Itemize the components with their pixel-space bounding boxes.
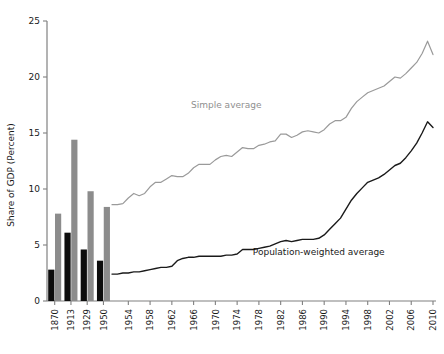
x-tick-label: 1970 xyxy=(211,309,221,331)
y-tick-label: 0 xyxy=(34,296,40,306)
x-tick-label: 1990 xyxy=(319,309,329,331)
y-tick-label: 10 xyxy=(29,184,41,194)
x-tick-label: 2006 xyxy=(406,309,416,331)
x-tick-label: 1870 xyxy=(50,309,60,331)
x-tick-label: 1958 xyxy=(145,309,155,331)
bar-population-weighted xyxy=(64,233,70,301)
bar-simple-average xyxy=(55,214,61,301)
chart-container: 0510152025Share of GDP (Percent)18701913… xyxy=(0,0,444,354)
x-tick-label: 1929 xyxy=(82,309,92,331)
bar-population-weighted xyxy=(97,261,103,301)
y-tick-label: 25 xyxy=(29,16,40,26)
bar-simple-average xyxy=(71,140,77,301)
x-tick-label: 1994 xyxy=(341,309,351,331)
x-tick-label: 1986 xyxy=(298,309,308,331)
x-tick-label: 2002 xyxy=(385,309,395,331)
x-tick-label: 1913 xyxy=(66,309,76,331)
x-tick-label: 1966 xyxy=(189,309,199,331)
bar-simple-average xyxy=(104,207,110,301)
bar-population-weighted xyxy=(81,249,87,301)
x-tick-label: 1998 xyxy=(363,309,373,331)
y-tick-label: 5 xyxy=(34,240,40,250)
bar-simple-average xyxy=(88,191,94,301)
x-tick-label: 1954 xyxy=(124,309,134,331)
line-simple-average xyxy=(112,41,433,205)
x-tick-label: 1950 xyxy=(99,309,109,331)
y-tick-label: 20 xyxy=(29,72,41,82)
bar-population-weighted xyxy=(48,270,54,301)
annotation-simple-average: Simple average xyxy=(191,100,262,110)
annotation-population-weighted-average: Population-weighted average xyxy=(253,247,385,257)
gdp-share-chart: 0510152025Share of GDP (Percent)18701913… xyxy=(0,0,444,354)
x-tick-label: 1982 xyxy=(276,309,286,331)
y-axis-title: Share of GDP (Percent) xyxy=(6,123,16,226)
x-tick-label: 1978 xyxy=(254,309,264,331)
x-tick-label: 1974 xyxy=(232,309,242,331)
x-tick-label: 2010 xyxy=(428,309,438,331)
y-tick-label: 15 xyxy=(29,128,40,138)
x-tick-label: 1962 xyxy=(167,309,177,331)
